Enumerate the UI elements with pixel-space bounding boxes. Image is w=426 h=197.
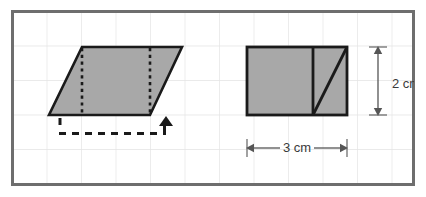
rectangle-fill — [247, 47, 347, 115]
height-dimension-label: 2 cm — [392, 76, 420, 91]
rectangle-shape — [247, 47, 347, 115]
figure-canvas: 2 cm 3 cm — [0, 0, 426, 197]
geometry-figure: 2 cm 3 cm — [0, 0, 426, 197]
width-dimension-label: 3 cm — [283, 140, 311, 155]
